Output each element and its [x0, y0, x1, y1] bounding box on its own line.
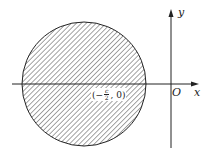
diagram-canvas: [0, 0, 211, 161]
minus-sign: −: [96, 90, 104, 100]
y-axis-arrow-icon: [169, 9, 174, 17]
y-axis-label: y: [178, 6, 184, 19]
fraction: c 2: [104, 88, 109, 101]
coordinate-rest: , 0): [110, 90, 125, 100]
x-axis-label: x: [194, 86, 200, 99]
circle-center-label: ( − c 2 , 0): [91, 88, 126, 101]
y-axis: [169, 9, 174, 148]
origin-label: O: [172, 86, 181, 99]
fraction-denominator: 2: [105, 95, 109, 101]
